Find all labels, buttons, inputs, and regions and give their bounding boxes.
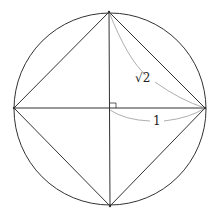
vertex-bottom [109,205,111,207]
right-angle-marker [110,103,116,108]
radius-brace-left [110,110,150,121]
label-one: 1 [153,114,161,128]
vertex-top [108,11,110,13]
label-sqrt2: √2 [135,71,150,85]
vertex-left [13,107,15,109]
vertex-right [204,107,206,109]
geometry-diagram: √2 1 [0,0,218,221]
side-brace-lower [155,82,205,108]
vertical-diagonal [109,12,110,206]
